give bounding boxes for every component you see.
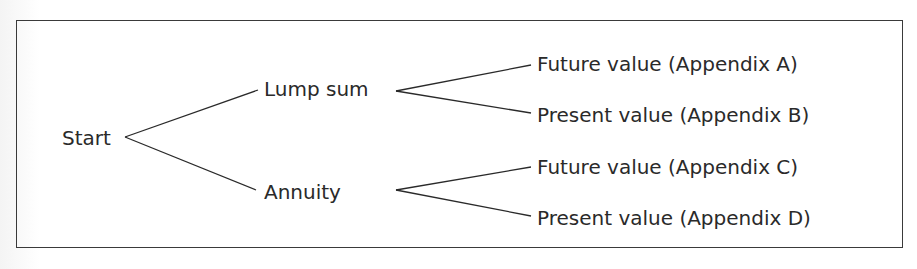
- node-future-value-a: Future value (Appendix A): [537, 52, 798, 76]
- connector-start-lumpsum: [125, 90, 258, 137]
- connector-lumpsum-fv: [396, 65, 531, 91]
- connector-lumpsum-pv: [396, 91, 531, 113]
- node-annuity: Annuity: [264, 180, 341, 204]
- node-present-value-d: Present value (Appendix D): [537, 206, 811, 230]
- node-future-value-c: Future value (Appendix C): [537, 155, 798, 179]
- connector-annuity-pv: [396, 190, 531, 216]
- connector-annuity-fv: [396, 167, 531, 190]
- node-start: Start: [62, 126, 111, 150]
- node-lump-sum: Lump sum: [264, 77, 369, 101]
- node-present-value-b: Present value (Appendix B): [537, 103, 809, 127]
- connector-start-annuity: [125, 137, 256, 190]
